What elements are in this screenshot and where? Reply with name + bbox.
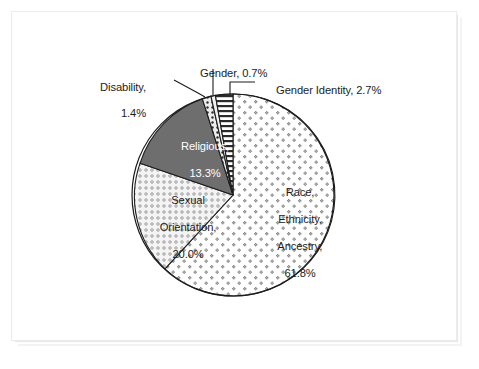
pie-label-race-line4: 61.8%: [284, 267, 315, 279]
pie-label-sexual-orientation-line1: Sexual: [171, 194, 205, 206]
pie-label-sexual-orientation-line2: Orientation,: [160, 221, 217, 233]
pie-label-gender-identity: Gender Identity, 2.7%: [258, 71, 381, 110]
pie-label-gender: Gender, 0.7%: [182, 54, 267, 93]
pie-label-race-line1: Race,: [286, 186, 315, 198]
pie-chart: Disability, 1.4% Gender, 0.7% Gender Ide…: [0, 0, 479, 369]
pie-label-disability: Disability, 1.4%: [82, 68, 146, 133]
pie-label-race-line3: Ancestry,: [277, 240, 322, 252]
chart-page: Disability, 1.4% Gender, 0.7% Gender Ide…: [0, 0, 479, 369]
pie-label-race-line2: Ethnicity,: [278, 213, 322, 225]
pie-label-religious-line1: Religious,: [181, 140, 229, 152]
pie-label-race-ethnicity-ancestry: Race, Ethnicity, Ancestry, 61.8%: [252, 172, 330, 294]
pie-label-disability-line1: Disability,: [100, 81, 146, 93]
pie-label-gender-identity-line1: Gender Identity, 2.7%: [276, 84, 381, 96]
pie-label-sexual-orientation: Sexual Orientation, 20.0%: [136, 180, 222, 275]
pie-label-disability-line2: 1.4%: [121, 107, 146, 119]
pie-label-religious-line2: 13.3%: [189, 167, 220, 179]
pie-label-sexual-orientation-line3: 20.0%: [172, 248, 203, 260]
